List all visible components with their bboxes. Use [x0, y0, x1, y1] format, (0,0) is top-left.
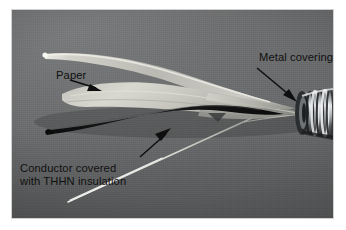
- annotation-metal-covering: Metal covering (armor): [259, 51, 333, 64]
- annotation-conductor-line1: Conductor covered: [20, 162, 126, 175]
- annotation-paper: Paper: [56, 69, 86, 82]
- annotation-conductor: Conductor covered with THHN insulation: [20, 162, 126, 187]
- annotation-conductor-line2: with THHN insulation: [20, 175, 126, 188]
- cable-photograph: Metal covering (armor) Paper Conductor c…: [12, 10, 333, 218]
- figure-container: Metal covering (armor) Paper Conductor c…: [0, 0, 346, 230]
